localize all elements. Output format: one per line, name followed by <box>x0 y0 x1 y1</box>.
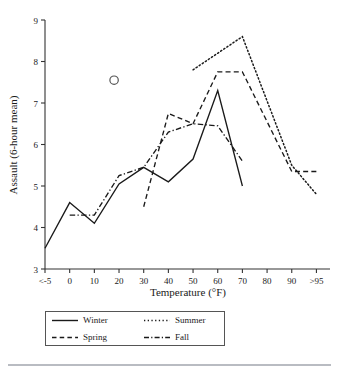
legend-swatch-summer <box>143 316 171 325</box>
x-tick-label: 30 <box>139 276 149 286</box>
x-tick-label: 0 <box>67 276 72 286</box>
y-tick-label: 3 <box>34 265 39 275</box>
series-line-summer <box>193 37 316 195</box>
legend-swatch-fall <box>143 333 171 342</box>
x-tick-label: 40 <box>164 276 174 286</box>
axes <box>41 20 330 273</box>
x-tick-label: 20 <box>115 276 125 286</box>
y-tick-label: 4 <box>34 223 39 233</box>
legend-item-winter: Winter <box>51 316 143 325</box>
y-tick-label: 6 <box>34 140 39 150</box>
data-series-layer <box>45 37 316 249</box>
legend-swatch-spring <box>51 333 79 342</box>
circle-marker-icon <box>110 76 118 84</box>
legend-label-winter: Winter <box>83 316 108 325</box>
legend-label-summer: Summer <box>175 316 206 325</box>
y-tick-label: 9 <box>34 16 39 26</box>
x-tick-label: 50 <box>189 276 199 286</box>
y-tick-label: 5 <box>34 182 39 192</box>
legend-swatch-winter <box>51 316 79 325</box>
series-line-fall <box>70 124 243 215</box>
x-tick-label: 80 <box>263 276 273 286</box>
y-tick-label: 7 <box>34 99 39 109</box>
y-axis-tick-labels: 3456789 <box>34 16 39 275</box>
y-axis-ticks <box>41 20 45 269</box>
legend-item-summer: Summer <box>143 316 231 325</box>
x-tick-label: <-5 <box>39 276 52 286</box>
series-line-winter <box>45 91 242 249</box>
x-tick-label: 60 <box>213 276 223 286</box>
footer-rule <box>8 364 331 366</box>
legend-label-fall: Fall <box>175 333 189 342</box>
y-axis-title: Assault (6-hour mean) <box>7 95 20 194</box>
x-tick-label: 70 <box>238 276 248 286</box>
chart-legend: Winter Summer Spring Fall <box>45 311 225 346</box>
x-tick-label: 90 <box>287 276 297 286</box>
chart-figure: 3456789 <-50102030405060708090>95 Temper… <box>0 0 339 374</box>
x-axis-tick-labels: <-50102030405060708090>95 <box>39 276 324 286</box>
legend-item-fall: Fall <box>143 333 231 342</box>
x-axis-ticks <box>45 269 316 273</box>
x-tick-label: 10 <box>90 276 100 286</box>
y-tick-label: 8 <box>34 57 39 67</box>
legend-item-spring: Spring <box>51 333 143 342</box>
x-tick-label: >95 <box>309 276 324 286</box>
legend-label-spring: Spring <box>83 333 107 342</box>
annotation-layer <box>110 76 118 84</box>
x-axis-title: Temperature (°F) <box>150 286 226 299</box>
